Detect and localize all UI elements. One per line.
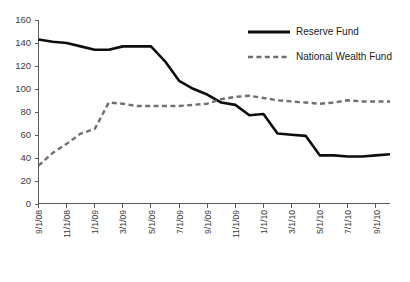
x-axis-tick-label: 1/1/09 [90,210,100,234]
x-axis-tick-label: 9/1/10 [372,210,382,234]
chart-container: 020406080100120140160 9/1/0811/1/081/1/0… [0,0,410,282]
line-chart: 020406080100120140160 9/1/0811/1/081/1/0… [0,0,410,282]
y-axis-tick-label: 60 [20,129,31,140]
legend-item-label: National Wealth Fund [296,51,392,62]
legend-item-label: Reserve Fund [296,26,359,37]
x-axis-tick-labels: 9/1/0811/1/081/1/093/1/095/1/097/1/099/1… [34,210,381,238]
x-axis-tick-label: 11/1/08 [62,210,72,238]
x-axis-tick-marks [39,204,376,208]
x-axis-tick-label: 5/1/10 [315,210,325,234]
y-axis-tick-labels: 020406080100120140160 [15,14,31,209]
y-axis-tick-marks [35,21,39,205]
x-axis-tick-label: 1/1/10 [259,210,269,234]
y-axis-tick-label: 100 [15,83,31,94]
x-axis-tick-label: 3/1/09 [118,210,128,234]
x-axis-tick-label: 11/1/09 [231,210,241,238]
x-axis-tick-label: 7/1/10 [343,210,353,234]
y-axis-tick-label: 160 [15,14,31,25]
y-axis-tick-label: 140 [15,37,31,48]
x-axis-tick-label: 3/1/10 [287,210,297,234]
chart-legend: Reserve FundNational Wealth Fund [248,26,392,62]
x-axis-tick-label: 5/1/09 [147,210,157,234]
y-axis-tick-label: 120 [15,60,31,71]
y-axis-tick-label: 80 [20,106,31,117]
y-axis-tick-label: 40 [20,152,31,163]
x-axis-tick-label: 9/1/09 [203,210,213,234]
x-axis-tick-label: 7/1/09 [175,210,185,234]
y-axis-tick-label: 20 [20,175,31,186]
y-axis-tick-label: 0 [26,198,31,209]
x-axis-tick-label: 9/1/08 [34,210,44,234]
